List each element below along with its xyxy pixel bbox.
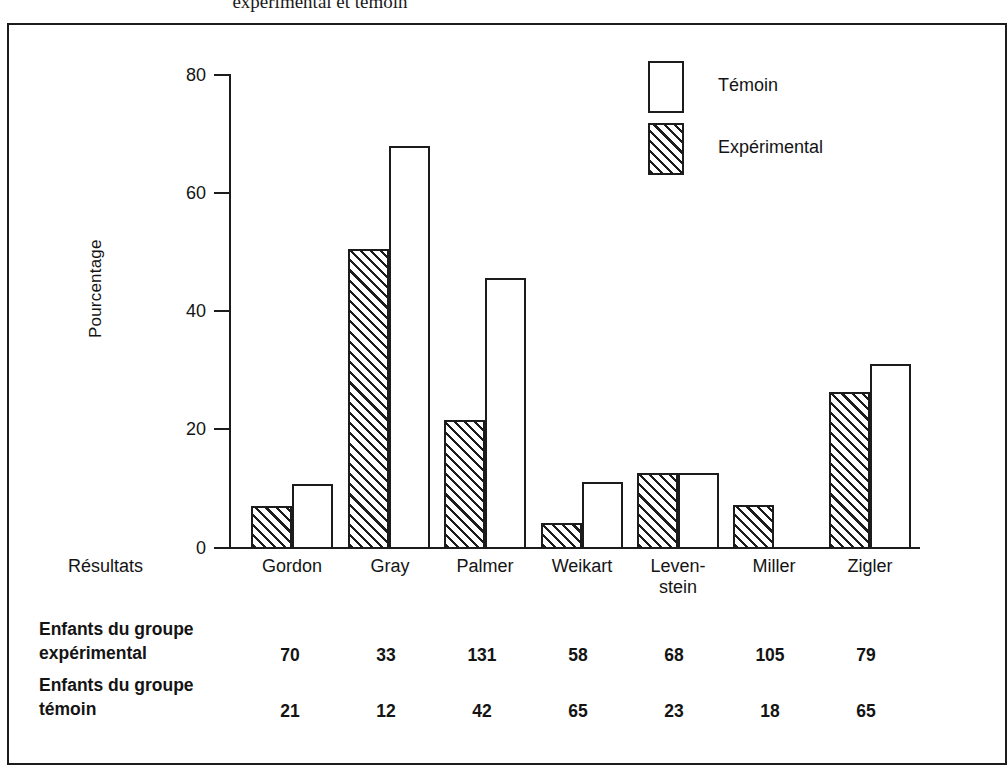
table-row-header-temoin-line2: témoin xyxy=(39,697,194,721)
table-row-header-temoin: Enfants du groupe témoin xyxy=(39,673,194,721)
table-cell-exp-gordon: 70 xyxy=(245,647,335,665)
table-cell-tem-weikart: 65 xyxy=(533,703,623,721)
table-cell-exp-gray: 33 xyxy=(341,647,431,665)
table-cell-tem-gordon: 21 xyxy=(245,703,335,721)
table-cell-exp-weikart: 58 xyxy=(533,647,623,665)
table-cell-exp-palmer: 131 xyxy=(437,647,527,665)
table-cell-tem-zigler: 65 xyxy=(821,703,911,721)
table-cell-tem-palmer: 42 xyxy=(437,703,527,721)
table-row-header-experimental: Enfants du groupe expérimental xyxy=(39,617,194,665)
table-row-header-experimental-line2: expérimental xyxy=(39,641,194,665)
table-cell-tem-miller: 18 xyxy=(725,703,815,721)
table-cell-exp-zigler: 79 xyxy=(821,647,911,665)
table-row-header-temoin-line1: Enfants du groupe xyxy=(39,673,194,697)
table-row-header-experimental-line1: Enfants du groupe xyxy=(39,617,194,641)
table-cell-tem-gray: 12 xyxy=(341,703,431,721)
table-cell-exp-levenstein: 68 xyxy=(629,647,719,665)
table-cell-exp-miller: 105 xyxy=(725,647,815,665)
table-cell-tem-levenstein: 23 xyxy=(629,703,719,721)
